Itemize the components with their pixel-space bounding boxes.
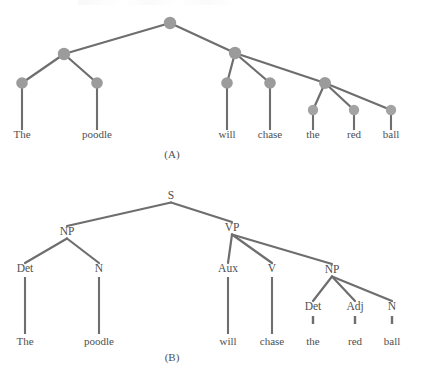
tree-node-dot (349, 105, 359, 115)
tree-node-label-aux: Aux (218, 262, 238, 274)
leaf-word: will (219, 335, 236, 347)
tree-branch (332, 277, 392, 302)
tree-branch (67, 203, 171, 227)
leaf-word: chase (260, 335, 285, 347)
tree-branch (235, 53, 270, 83)
tree-branch (235, 53, 325, 83)
tree-branch (228, 235, 232, 264)
tree-node-dot (229, 47, 241, 59)
tree-diagram-canvas: Thepoodlewillchasetheredball(A)Thepoodle… (0, 0, 423, 373)
leaf-word: The (13, 128, 30, 140)
tree-branch (313, 277, 332, 302)
tree-node-dot (264, 77, 276, 89)
tree-panel-A: Thepoodlewillchasetheredball(A) (13, 17, 399, 161)
tree-node-label-vp: VP (225, 221, 240, 233)
tree-branch (25, 239, 67, 264)
leaf-word: red (348, 335, 363, 347)
tree-node-dot (386, 105, 396, 115)
leaf-word: red (347, 128, 362, 140)
tree-node-label-det: Det (305, 300, 322, 312)
tree-node-dot (91, 77, 103, 89)
tree-node-label-det: Det (17, 262, 34, 274)
tree-branch (64, 54, 97, 83)
tree-branch (232, 235, 332, 265)
tree-branch (325, 83, 391, 110)
tree-node-label-v: V (268, 262, 277, 274)
tree-node-dot (164, 17, 176, 29)
leaf-word: will (218, 128, 235, 140)
tree-branch (64, 23, 170, 54)
tree-node-dot (319, 77, 331, 89)
tree-node-label-np: NP (60, 225, 75, 237)
tree-branch (170, 23, 235, 53)
tree-node-dot (221, 77, 233, 89)
tree-branch (67, 239, 99, 264)
leaf-word: the (306, 335, 320, 347)
panel-caption-A: (A) (164, 148, 180, 161)
panel-caption-B: (B) (165, 351, 180, 364)
leaf-word: the (306, 128, 320, 140)
tree-node-label-n: N (388, 300, 397, 312)
leaf-word: ball (384, 335, 401, 347)
tree-node-dot (16, 77, 28, 89)
tree-node-dot (308, 105, 318, 115)
leaf-word: poodle (84, 335, 114, 347)
tree-node-label-n: N (95, 262, 104, 274)
tree-node-label-adj: Adj (346, 300, 363, 313)
leaf-word: ball (383, 128, 400, 140)
leaf-word: poodle (82, 128, 112, 140)
tree-node-dot (58, 48, 70, 60)
leaf-word: chase (258, 128, 283, 140)
tree-node-label-np: NP (325, 263, 340, 275)
tree-branch (22, 54, 64, 83)
tree-branch (171, 203, 232, 223)
tree-node-label-s: S (168, 189, 174, 201)
tree-panel-B: ThepoodlewillchasetheredballSNPVPDetNAux… (16, 189, 400, 364)
tree-branch (232, 235, 272, 264)
leaf-word: The (16, 335, 33, 347)
parse-tree-figure: Thepoodlewillchasetheredball(A)Thepoodle… (0, 0, 423, 373)
